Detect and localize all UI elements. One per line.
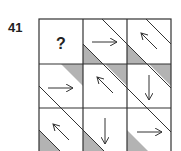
arrow-up-left-icon [97,77,113,93]
question-mark: ? [56,35,66,52]
puzzle-grid: ? [0,0,181,151]
arrow-up-left-icon [141,33,157,49]
diagonal-stripes [0,0,181,151]
arrow-up-left-icon [53,124,69,140]
